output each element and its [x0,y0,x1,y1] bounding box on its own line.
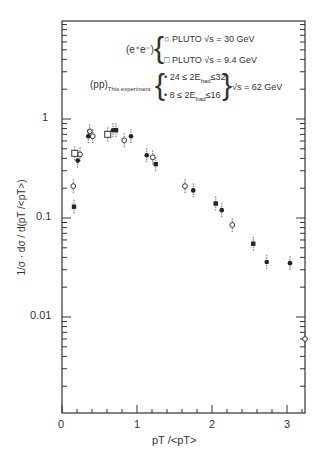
legend-ee-label: (e⁺e⁻) [126,44,154,55]
legend-low-energy: • 8 ≤ 2Ehad≤16 [164,90,221,102]
y-axis-label: 1/σ · dσ / d(pT /<pT>) [16,163,27,293]
legend-ee-brace: { [154,33,164,63]
data-point [129,129,134,143]
data-point [183,179,188,193]
x-tick-2: 2 [209,418,215,430]
data-point [288,256,293,270]
y-tick-0.01: 0.01 [30,309,51,321]
legend-pluto-9-4: □ PLUTO √s = 9.4 GeV [164,55,257,65]
legend-high-energy: • 24 ≤ 2Ehad≤32 [164,72,226,84]
data-point [114,123,118,137]
data-point [122,133,127,147]
data-point [72,146,78,160]
y-tick-0.1: 0.1 [36,210,51,222]
legend-pp-label: (pp)This experiment [90,79,150,92]
x-axis-label: pT /<pT> [152,434,196,446]
data-point [219,203,224,217]
x-tick-0: 0 [58,418,64,430]
legend-energy: √s = 62 GeV [232,82,282,92]
legend-pp-brace-right: } [222,70,232,100]
data-point [230,218,235,232]
data-point [191,183,196,197]
x-tick-3: 3 [284,418,290,430]
x-tick-1: 1 [134,418,140,430]
data-point [71,179,76,193]
data-point [72,200,76,214]
y-tick-1: 1 [42,111,48,123]
legend-pluto-30: ○ PLUTO √s = 30 GeV [164,34,255,44]
data-point [214,197,218,211]
data-point [264,255,269,269]
data-point [105,127,111,141]
data-points [71,123,308,346]
data-point [144,148,149,162]
data-point [251,237,255,251]
